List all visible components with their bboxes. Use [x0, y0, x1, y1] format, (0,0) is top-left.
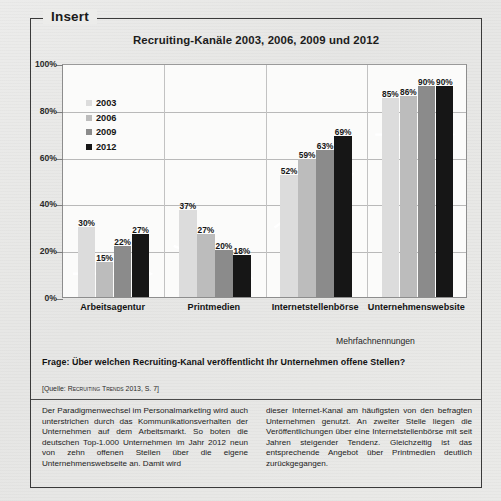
body-column-left: Der Paradigmenwechsel im Personalmarketi…	[42, 406, 248, 470]
multiple-answers-note: Mehrfachnennungen	[336, 336, 415, 346]
legend-label: 2006	[96, 113, 116, 123]
legend-item-2003: 2003	[86, 96, 116, 111]
x-axis-category-label: Unternehmenswebsite	[358, 302, 475, 312]
bar-2012	[436, 86, 454, 297]
y-axis-tick-label: 40%	[21, 199, 57, 209]
legend-label: 2003	[96, 98, 116, 108]
bar-value-label: 37%	[174, 201, 202, 211]
source-close: 2013, S. 7]	[124, 385, 159, 392]
bar-2009	[316, 150, 334, 297]
x-axis-category-label: Arbeitsagentur	[54, 302, 171, 312]
bar-2006	[96, 262, 114, 297]
bar-2003	[280, 175, 298, 297]
bar-2012	[132, 234, 150, 297]
bar-value-label: 69%	[329, 127, 357, 137]
chart-legend: 2003200620092012	[86, 96, 116, 154]
bar-2009	[114, 246, 132, 297]
bar-2012	[334, 136, 352, 297]
insert-label: Insert	[43, 9, 97, 24]
bar-2003	[382, 98, 400, 297]
y-axis-tick-mark	[56, 65, 63, 66]
legend-item-2009: 2009	[86, 125, 116, 140]
source-title: Recruiting Trends	[68, 385, 124, 392]
y-axis-tick-mark	[56, 112, 63, 113]
source-citation: [Quelle: Recruiting Trends 2013, S. 7]	[42, 385, 159, 392]
group-separator	[164, 65, 165, 297]
bar-value-label: 30%	[73, 218, 101, 228]
bar-2009	[215, 250, 233, 297]
y-axis-tick-mark	[56, 205, 63, 206]
bar-value-label: 90%	[431, 77, 459, 87]
group-separator	[367, 65, 368, 297]
y-axis-tick-label: 80%	[21, 106, 57, 116]
bar-2003	[179, 210, 197, 297]
y-axis-tick-label: 100%	[21, 59, 57, 69]
question-text: Frage: Über welchen Recruiting-Kanal ver…	[42, 357, 405, 367]
bar-value-label: 27%	[127, 225, 155, 235]
legend-item-2012: 2012	[86, 140, 116, 155]
bar-2012	[233, 255, 251, 297]
legend-swatch-icon	[86, 144, 92, 150]
x-axis-category-label: Printmedien	[155, 302, 272, 312]
source-open: [Quelle:	[42, 385, 68, 392]
legend-swatch-icon	[86, 129, 92, 135]
y-axis-tick-label: 60%	[21, 153, 57, 163]
legend-label: 2009	[96, 127, 116, 137]
chart-plot-area: 30%15%22%27%37%27%20%18%52%59%63%69%85%8…	[62, 64, 467, 298]
chart-title: Recruiting-Kanäle 2003, 2006, 2009 und 2…	[30, 34, 482, 46]
y-axis-tick-mark	[56, 159, 63, 160]
bar-value-label: 27%	[192, 225, 220, 235]
body-text: Der Paradigmenwechsel im Personalmarketi…	[42, 406, 472, 470]
legend-swatch-icon	[86, 115, 92, 121]
y-axis-tick-mark	[56, 299, 63, 300]
y-axis-tick-label: 20%	[21, 246, 57, 256]
x-axis-category-label: Internetstellenbörse	[257, 302, 374, 312]
horizontal-rule	[31, 399, 481, 400]
legend-label: 2012	[96, 142, 116, 152]
legend-swatch-icon	[86, 100, 92, 106]
bar-2009	[418, 86, 436, 297]
y-axis-tick-mark	[56, 252, 63, 253]
group-separator	[266, 65, 267, 297]
bar-2006	[298, 159, 316, 297]
y-axis-tick-label: 0%	[21, 293, 57, 303]
legend-item-2006: 2006	[86, 111, 116, 126]
bar-2006	[400, 96, 418, 297]
bar-value-label: 18%	[228, 246, 256, 256]
body-column-right: dieser Internet-Kanal am häufigsten von …	[266, 406, 472, 470]
